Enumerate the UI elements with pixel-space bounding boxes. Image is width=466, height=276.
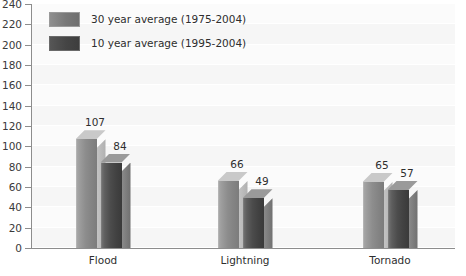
bar <box>101 163 122 248</box>
y-axis-tick-label: 200 <box>0 40 22 51</box>
y-axis-tick <box>25 4 31 5</box>
bar-top-face <box>76 130 106 139</box>
y-axis-tick-label: 180 <box>0 60 22 71</box>
bar-front-face <box>76 139 97 248</box>
y-axis-tick <box>25 228 31 229</box>
chart-legend: 30 year average (1975-2004) 10 year aver… <box>49 11 234 55</box>
y-axis-tick <box>25 187 31 188</box>
bar-front-face <box>218 181 239 248</box>
y-axis-tick <box>25 126 31 127</box>
x-axis-line <box>31 248 455 249</box>
y-axis-tick-label: 220 <box>0 19 22 30</box>
bar <box>388 190 409 248</box>
legend-label-30-year: 30 year average (1975-2004) <box>91 14 246 25</box>
y-axis-tick <box>25 65 31 66</box>
bar <box>363 182 384 248</box>
y-axis-tick <box>25 167 31 168</box>
gridline <box>31 64 455 65</box>
y-axis-tick-label: 60 <box>0 182 22 193</box>
legend-label-10-year: 10 year average (1995-2004) <box>91 38 246 49</box>
y-axis-tick <box>25 85 31 86</box>
gridline <box>31 105 455 106</box>
bar-value-label: 49 <box>246 176 279 187</box>
bar-top-face <box>218 172 248 181</box>
bar-top-face <box>363 173 393 182</box>
bar-side-face <box>409 190 418 248</box>
bar-value-label: 66 <box>221 159 254 170</box>
bar-front-face <box>363 182 384 248</box>
y-axis-tick-label: 160 <box>0 80 22 91</box>
legend-item-10-year: 10 year average (1995-2004) <box>49 35 246 52</box>
y-axis-tick <box>25 146 31 147</box>
bar-front-face <box>243 198 264 248</box>
bar-front-face <box>388 190 409 248</box>
bar-front-face <box>101 163 122 248</box>
y-axis-tick <box>25 106 31 107</box>
grid-band <box>31 65 455 85</box>
legend-swatch-10-year <box>49 36 80 51</box>
y-axis-tick-label: 100 <box>0 141 22 152</box>
y-axis-tick-label: 0 <box>0 243 22 254</box>
x-axis-category-label: Flood <box>53 255 153 266</box>
y-axis-tick <box>25 248 31 249</box>
bar-chart: 1078466496557 02040608010012014016018020… <box>0 0 466 276</box>
bar-value-label: 84 <box>104 141 137 152</box>
y-axis-tick-label: 80 <box>0 162 22 173</box>
y-axis-tick <box>25 207 31 208</box>
bar <box>243 198 264 248</box>
gridline <box>31 84 455 85</box>
y-axis-tick-label: 140 <box>0 101 22 112</box>
y-axis-tick-label: 120 <box>0 121 22 132</box>
y-axis-tick <box>25 45 31 46</box>
y-axis-line <box>31 4 32 248</box>
bar <box>76 139 97 248</box>
bar-value-label: 57 <box>391 168 424 179</box>
bar <box>218 181 239 248</box>
y-axis-tick <box>25 24 31 25</box>
x-axis-category-label: Lightning <box>195 255 295 266</box>
y-axis-tick-label: 20 <box>0 223 22 234</box>
y-axis-tick-label: 240 <box>0 0 22 10</box>
bar-value-label: 107 <box>79 117 112 128</box>
legend-swatch-30-year <box>49 12 80 27</box>
bar-side-face <box>122 163 131 248</box>
x-axis-category-label: Tornado <box>340 255 440 266</box>
legend-item-30-year: 30 year average (1975-2004) <box>49 11 246 28</box>
y-axis-tick-label: 40 <box>0 202 22 213</box>
